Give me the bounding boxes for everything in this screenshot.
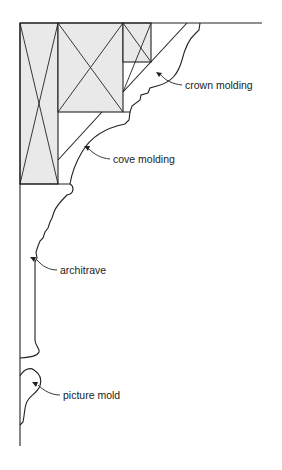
diagram-canvas: crown molding cove molding architrave pi… [0, 0, 282, 470]
cove-leader [89, 149, 110, 159]
architrave-leader [37, 260, 57, 270]
label-cove-molding: cove molding [113, 153, 175, 165]
picture-arrow-icon [32, 382, 38, 387]
cove-arrow-icon [84, 146, 90, 151]
picture-leader [38, 385, 60, 395]
label-picture-mold: picture mold [63, 389, 120, 401]
label-architrave: architrave [60, 264, 106, 276]
label-crown-molding: crown molding [185, 79, 253, 91]
picture-mold-shape [20, 369, 41, 425]
molding-diagram: crown molding cove molding architrave pi… [0, 0, 282, 470]
cove-molding-shape [58, 112, 130, 184]
crown-arrow-icon [156, 72, 162, 77]
